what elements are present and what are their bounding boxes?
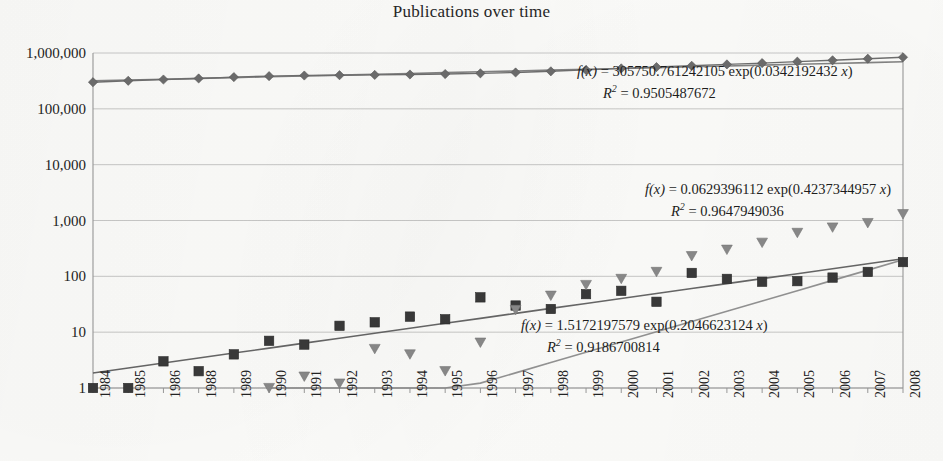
trendline-equation-3: f(x) = 1.5172197579 exp(0.2046623124 x) … [521,316,768,357]
x-tick-label: 1996 [485,370,501,398]
x-tick-label: 1992 [345,370,361,398]
x-tick-label: 2006 [838,370,854,398]
equation-r2-3: R2 = 0.9186700814 [547,336,768,357]
r2-label-3: R [547,338,556,354]
chart-container: Publications over time 1,000,000100,0001… [0,0,943,461]
x-tick-label: 2008 [908,370,924,398]
x-tick-label: 1993 [380,370,396,398]
equation-tail-1: ) [848,63,853,79]
equation-body-3: = 1.5172197579 exp(0.2046623124 [541,317,756,333]
equation-r2-2: R2 = 0.9647949036 [671,200,891,221]
x-tick-label: 1995 [450,370,466,398]
r2-label-2: R [671,202,680,218]
x-tick-label: 1998 [556,370,572,398]
equation-line-3: f(x) = 1.5172197579 exp(0.2046623124 x) [521,316,768,336]
equation-tail-2: ) [886,181,891,197]
x-tick-label: 2001 [661,370,677,398]
equation-r2-1: R2 = 0.9505487672 [603,82,853,103]
equation-fx-1: f(x) [577,63,597,79]
x-tick-label: 1991 [309,370,325,398]
x-tick-label: 2000 [626,370,642,398]
x-tick-label: 1985 [133,370,149,398]
x-tick-label: 1986 [168,370,184,398]
x-tick-label: 1988 [204,370,220,398]
r2-label-1: R [603,84,612,100]
x-tick-label: 2004 [767,370,783,398]
equation-body-2: = 0.0629396112 exp(0.4237344957 [665,181,880,197]
equation-tail-3: ) [763,317,768,333]
equation-line-1: f(x) = 305750.761242105 exp(0.0342192432… [577,62,853,82]
equation-fx-2: f(x) [645,181,665,197]
equation-fx-3: f(x) [521,317,541,333]
x-tick-label: 2002 [697,370,713,398]
x-tick-label: 2005 [802,370,818,398]
x-tick-label: 1999 [591,370,607,398]
x-tick-label: 1994 [415,370,431,398]
x-tick-label: 1997 [521,370,537,398]
r2-value-2: = 0.9647949036 [685,202,784,218]
r2-value-3: = 0.9186700814 [561,338,660,354]
trendline-equation-1: f(x) = 305750.761242105 exp(0.0342192432… [577,62,853,103]
x-tick-label: 1990 [274,370,290,398]
x-tick-label: 2003 [732,370,748,398]
x-tick-label: 2007 [873,370,889,398]
x-tick-label: 1989 [239,370,255,398]
equation-line-2: f(x) = 0.0629396112 exp(0.4237344957 x) [645,180,891,200]
x-tick-label: 1984 [98,370,114,398]
equation-body-1: = 305750.761242105 exp(0.0342192432 [597,63,841,79]
trendline-equation-2: f(x) = 0.0629396112 exp(0.4237344957 x) … [645,180,891,221]
r2-value-1: = 0.9505487672 [617,84,716,100]
